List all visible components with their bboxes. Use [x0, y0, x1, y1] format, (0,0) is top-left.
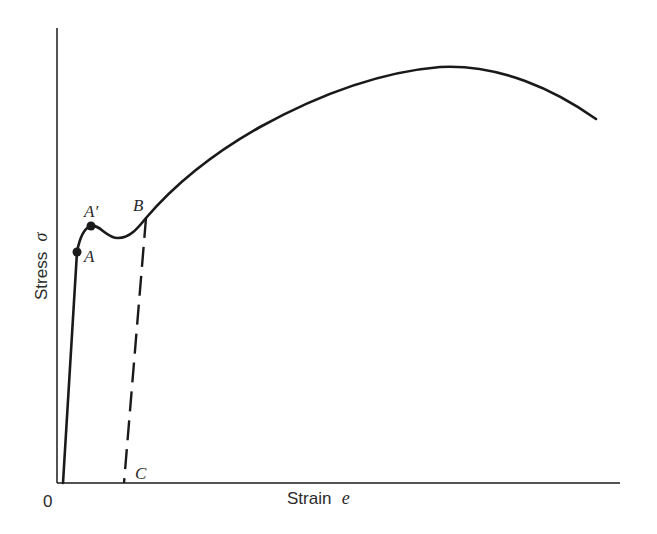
stress-strain-diagram: A′ A B C 0 Strain e Stress σ	[0, 0, 657, 534]
x-axis-word: Strain	[287, 489, 331, 508]
label-a-prime: A′	[83, 202, 98, 221]
point-a-marker	[73, 248, 82, 257]
unloading-dashed-line	[124, 218, 146, 483]
point-a-prime-marker	[87, 222, 96, 231]
stress-strain-curve	[63, 67, 596, 483]
label-a: A	[83, 247, 95, 266]
origin-label: 0	[43, 492, 52, 511]
y-axis-symbol: σ	[31, 232, 51, 242]
label-c: C	[135, 464, 147, 483]
y-axis-word: Stress	[32, 252, 51, 300]
y-axis-label: Stress σ	[31, 232, 51, 300]
label-b: B	[133, 196, 144, 215]
x-axis-label: Strain e	[287, 488, 350, 508]
x-axis-symbol: e	[342, 488, 350, 508]
